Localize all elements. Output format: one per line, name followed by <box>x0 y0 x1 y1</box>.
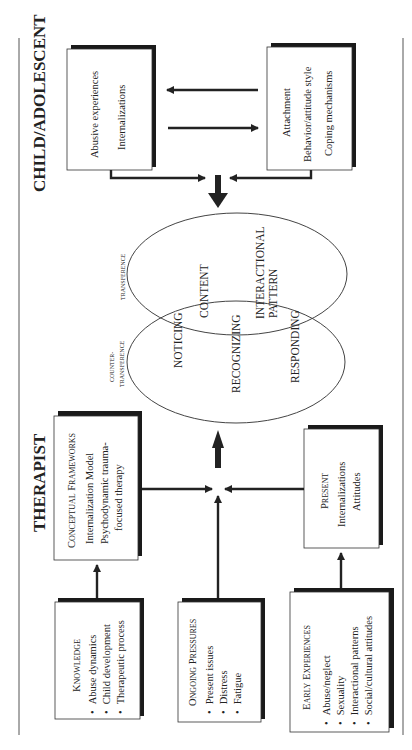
therapist-heading: THERAPIST <box>30 433 49 532</box>
knowledge-title: KNOWLEDGE <box>71 639 82 692</box>
attachment-line-1: Attachment <box>281 88 292 137</box>
interactional-label-2: PATTERN <box>267 268 279 318</box>
countertransference-label-2: TRANSFERENCE <box>119 340 125 387</box>
early-bullet-3: •Interactional patterns <box>349 626 360 725</box>
countertransference-label-1: COUNTER- <box>109 352 115 382</box>
knowledge-box: KNOWLEDGE •Abuse dynamics •Child develop… <box>55 598 144 719</box>
abusive-line-2: Internalizations <box>116 85 127 150</box>
transference-label: TRANSFERENCE <box>120 253 126 300</box>
responding-label: RESPONDING <box>289 310 301 383</box>
early-bullet-4: •Social/cultural attitudes <box>363 616 374 725</box>
knowledge-bullet-3: •Therapeutic process <box>115 620 126 714</box>
conceptual-line-3: focused therapy <box>113 463 124 531</box>
conceptual-frameworks-box: CONCEPTUAL FRAMEWORKS Internalization Mo… <box>54 411 142 560</box>
early-experiences-box: EARLY EXPERIENCES •Abuse/neglect •Sexual… <box>290 588 394 732</box>
big-up-arrow-shaft <box>215 446 221 468</box>
present-line-2: Attitudes <box>351 473 362 512</box>
child-adolescent-heading: CHILD/ADOLESCENT <box>30 14 49 192</box>
big-down-arrow-shaft <box>215 175 221 195</box>
connector-abusive-down <box>111 170 205 178</box>
content-label: CONTENT <box>198 264 210 318</box>
early-title: EARLY EXPERIENCES <box>301 625 312 710</box>
interactional-label-1: INTERACTIONAL <box>254 226 266 319</box>
attachment-line-2: Behavior/attitude style <box>302 66 313 162</box>
recognizing-label: RECOGNIZING <box>230 314 242 393</box>
conceptual-line-2: Psychodynamic trauma- <box>99 442 110 544</box>
attachment-line-3: Coping mechanisms <box>323 71 334 156</box>
ongoing-pressures-box: ONGOING PRESSURES •Present issues •Distr… <box>178 598 265 722</box>
connector-attachment-down <box>230 170 311 178</box>
ongoing-bullet-1: •Present issues <box>204 646 215 714</box>
big-up-arrow-head <box>212 430 224 448</box>
early-bullet-1: •Abuse/neglect <box>321 655 332 725</box>
abusive-experiences-box: Abusive experiences Internalizations <box>67 45 156 170</box>
conceptual-title: CONCEPTUAL FRAMEWORKS <box>66 433 77 548</box>
diagram: CHILD/ADOLESCENT THERAPIST Abusive exper… <box>0 0 412 750</box>
ongoing-title: ONGOING PRESSURES <box>187 619 198 706</box>
present-title: PRESENT <box>319 473 330 509</box>
attachment-box: Attachment Behavior/attitude style Copin… <box>267 43 356 170</box>
noticing-label: NOTICING <box>172 312 184 368</box>
knowledge-bullet-2: •Child development <box>101 624 112 714</box>
abusive-line-1: Abusive experiences <box>89 71 100 158</box>
conceptual-line-1: Internalization Model <box>84 453 95 544</box>
present-box: PRESENT Internalizations Attitudes <box>304 425 383 548</box>
big-down-arrow-head <box>208 193 228 208</box>
present-line-1: Internalizations <box>336 462 347 527</box>
knowledge-bullet-1: •Abuse dynamics <box>87 635 98 714</box>
